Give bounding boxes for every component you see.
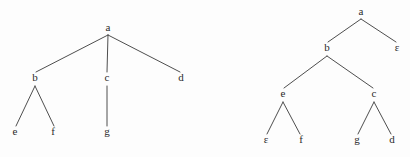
tree-node-label: d — [178, 71, 184, 83]
tree-node-label: f — [299, 133, 303, 145]
tree-node-label: g — [354, 133, 360, 145]
left-tree: abcdefg — [13, 21, 185, 137]
tree-node-label: f — [51, 125, 55, 137]
right-tree: abεecεfgd — [264, 5, 400, 145]
tree-edge — [283, 102, 300, 134]
tree-edge — [267, 102, 283, 134]
tree-edge — [107, 35, 108, 72]
tree-edge — [108, 35, 180, 72]
tree-node-label: c — [372, 87, 377, 99]
tree-node-label: e — [13, 125, 18, 137]
tree-edge — [374, 102, 391, 134]
tree-node-label: ε — [264, 133, 269, 145]
tree-node-label: b — [32, 71, 38, 83]
tree-node-label: c — [105, 71, 110, 83]
tree-edge — [327, 56, 373, 88]
tree-node-label: b — [324, 41, 330, 53]
tree-edge — [284, 56, 327, 88]
tree-node-label: a — [359, 5, 364, 17]
tree-edge — [328, 19, 361, 42]
tree-edge — [16, 86, 35, 126]
tree-edge — [36, 35, 108, 72]
tree-edge — [361, 19, 396, 42]
tree-diagram-figure: abcdefg abεecεfgd — [0, 0, 410, 157]
tree-edge — [358, 102, 374, 134]
tree-node-label: g — [104, 125, 110, 137]
tree-edge — [35, 86, 54, 126]
tree-node-label: d — [389, 133, 395, 145]
tree-node-label: a — [106, 21, 111, 33]
tree-diagram-canvas: abcdefg abεecεfgd — [0, 0, 410, 157]
tree-node-label: e — [281, 87, 286, 99]
tree-node-label: ε — [395, 41, 400, 53]
